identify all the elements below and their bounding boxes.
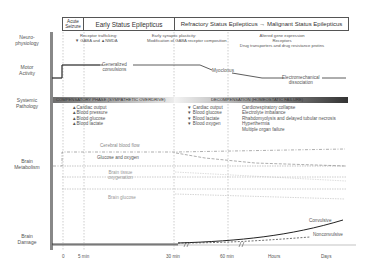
time-tick-60min: 60 min xyxy=(220,254,234,259)
stage-early-se: Early Status Epilepticus xyxy=(83,17,175,31)
axis-break-2 xyxy=(239,242,244,247)
decompensation-phase-label: DECOMPENSATION (HOMEOSTATIC FAILURE) xyxy=(208,97,351,103)
motor-generalized-convulsions: Generalized convulsions xyxy=(102,62,127,73)
nonconvulsive-label: Nonconvulsive xyxy=(313,232,343,237)
cerebral-blood-flow-label: Cerebral blood flow xyxy=(100,143,140,148)
motor-myoclonus: Myoclonus xyxy=(212,68,234,73)
brain-glucose-decline xyxy=(175,194,345,199)
compensatory-item: ▲Blood lactate xyxy=(72,121,107,126)
convulsive-label: Convulsive xyxy=(309,218,331,223)
gene-expression-line3: Drug transporters and drug resistance pr… xyxy=(232,43,332,48)
glucose-oxygen-label: Glucose and oxygen xyxy=(97,155,139,160)
time-tick-days: Days xyxy=(321,254,331,259)
stage-refractory-se: Refractory Status Epilepticus → Malignan… xyxy=(174,17,349,31)
failure-item: Multiple organ failure xyxy=(242,127,336,132)
time-tick-5min: 5 min xyxy=(78,254,89,259)
time-tick-hours: Hours xyxy=(268,254,280,259)
failure-items: Cardiorespiratory collapse Electrolyte i… xyxy=(242,105,336,132)
motor-electromechanical-dissociation: Electromechanical dissociation xyxy=(282,75,320,86)
time-tick-30min: 30 min xyxy=(166,254,180,259)
compensatory-items: ▲Cardiac output ▲Blood pressure ▲Blood g… xyxy=(72,105,107,127)
decompensation-items: ▼ Cardiac output ▼ Blood glucose ▼ Blood… xyxy=(187,105,223,127)
cbf-decline-line xyxy=(176,153,346,166)
time-tick-0: 0 xyxy=(62,254,65,259)
vertical-axis xyxy=(50,32,53,250)
stage-acute-seizure: Acute Seizure xyxy=(62,17,84,31)
receptor-trafficking-detail: ▼ GABA and ▲NMDA xyxy=(75,38,118,43)
tissue-oxygen-decline xyxy=(175,172,346,181)
brain-tissue-oxygenation-label: Brain tissue oxygenation xyxy=(108,170,133,181)
brain-glucose-label: Brain glucose xyxy=(108,195,136,200)
decompensation-item: ▼ Blood oxygen xyxy=(187,121,223,126)
motor-activity-line xyxy=(52,65,100,78)
synaptic-plasticity-detail: Modification of GABA receptor compositio… xyxy=(147,38,227,43)
compensatory-phase-label: COMPENSATORY PHASE (SYMPATHETIC OVERDRIV… xyxy=(53,97,174,103)
